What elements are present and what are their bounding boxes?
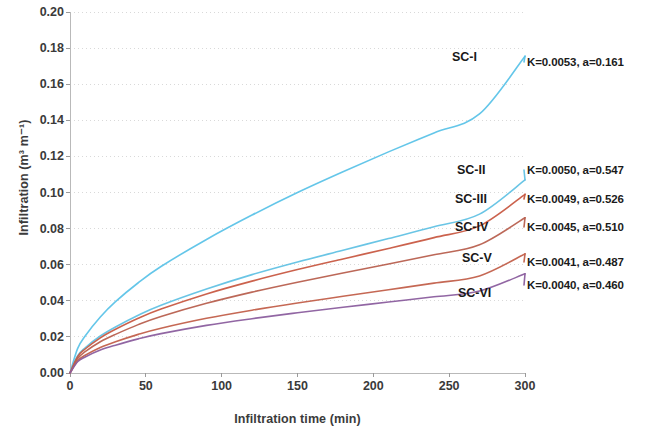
- x-tick-label: 250: [429, 379, 469, 393]
- x-tick-label: 300: [505, 379, 545, 393]
- y-tick-label: 0.20: [22, 5, 64, 19]
- leader-line-sc-i: [524, 56, 525, 62]
- y-tick-label: 0.18: [22, 41, 64, 55]
- leader-line-sc-iv: [524, 218, 525, 227]
- y-tick-label: 0.04: [22, 294, 64, 308]
- annotation-leader-lines: [524, 56, 525, 285]
- x-tick-label: 0: [50, 379, 90, 393]
- x-tick-label: 200: [353, 379, 393, 393]
- x-tick-label: 50: [126, 379, 166, 393]
- series-label-sc-iv: SC-IV: [455, 220, 488, 234]
- series-line-sc-vi: [70, 274, 525, 373]
- series-params-sc-iii: K=0.0049, a=0.526: [527, 193, 624, 205]
- y-tick-label: 0.16: [22, 77, 64, 91]
- series-label-sc-vi: SC-VI: [458, 286, 491, 300]
- x-axis-tick-labels: 050100150200250300: [0, 379, 645, 399]
- leader-line-sc-iii: [524, 194, 525, 199]
- series-line-sc-ii: [70, 180, 525, 373]
- y-tick-label: 0.02: [22, 330, 64, 344]
- series-params-sc-ii: K=0.0050, a=0.547: [527, 164, 624, 176]
- series-label-sc-i: SC-I: [452, 50, 477, 64]
- series-params-sc-iv: K=0.0045, a=0.510: [527, 221, 624, 233]
- leader-line-sc-ii: [524, 170, 525, 180]
- series-params-sc-vi: K=0.0040, a=0.460: [527, 279, 624, 291]
- series-curves-group: [70, 56, 525, 373]
- leader-line-sc-v: [524, 254, 525, 262]
- x-axis-title: Infiltration time (min): [70, 412, 525, 426]
- series-params-sc-v: K=0.0041, a=0.487: [527, 256, 624, 268]
- leader-line-sc-vi: [524, 274, 525, 285]
- infiltration-chart: 0.000.020.040.060.080.100.120.140.160.18…: [0, 0, 645, 438]
- series-params-sc-i: K=0.0053, a=0.161: [527, 56, 624, 68]
- series-label-sc-ii: SC-II: [457, 163, 485, 177]
- y-axis-title: Infiltration (m³ m⁻¹): [16, 93, 31, 263]
- series-label-sc-v: SC-V: [462, 251, 492, 265]
- x-tick-label: 150: [278, 379, 318, 393]
- x-tick-label: 100: [202, 379, 242, 393]
- y-tick-label: 0.00: [22, 366, 64, 380]
- series-label-sc-iii: SC-III: [455, 192, 487, 206]
